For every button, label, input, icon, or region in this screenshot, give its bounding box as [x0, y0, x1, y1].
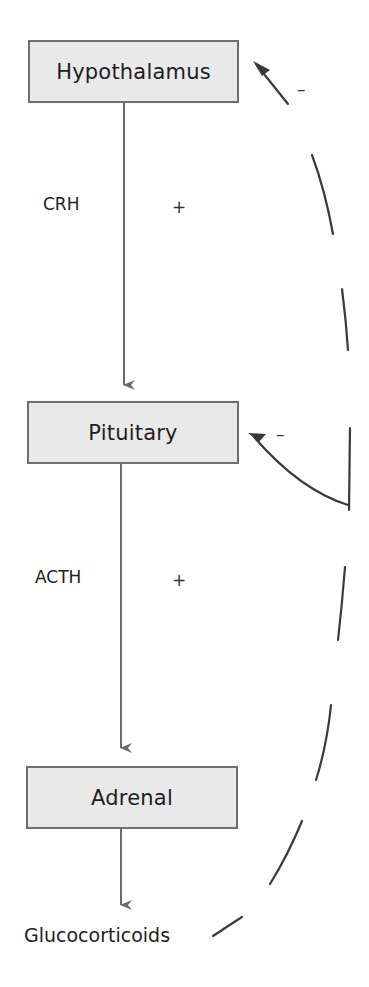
- glucocorticoids-label: Glucocorticoids: [24, 924, 170, 946]
- acth-plus-sign: +: [172, 570, 186, 590]
- acth-label: ACTH: [35, 567, 81, 587]
- crh-plus-sign: +: [172, 197, 186, 217]
- hypothalamus-box: Hypothalamus: [28, 40, 239, 103]
- adrenal-label: Adrenal: [91, 786, 173, 810]
- crh-label: CRH: [43, 194, 79, 214]
- arrows-layer: [0, 0, 369, 987]
- hypothalamus-feedback-arrowhead: [253, 61, 270, 76]
- hypothalamus-minus-sign: –: [297, 79, 306, 99]
- pituitary-minus-sign: –: [276, 424, 285, 444]
- adrenal-box: Adrenal: [26, 766, 238, 829]
- pituitary-label: Pituitary: [88, 421, 177, 445]
- hypothalamus-label: Hypothalamus: [56, 60, 211, 84]
- pituitary-box: Pituitary: [27, 401, 239, 464]
